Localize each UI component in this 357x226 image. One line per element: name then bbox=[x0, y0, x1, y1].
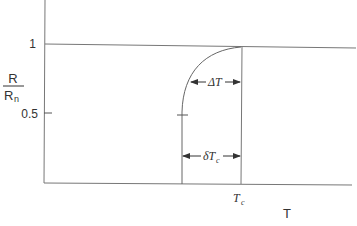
y-tick-1-label: 1 bbox=[29, 37, 36, 51]
transition-curve bbox=[182, 47, 241, 184]
delta-t-label: ΔT bbox=[207, 75, 223, 89]
tc-tick-label: T bbox=[233, 191, 241, 205]
y-axis bbox=[44, 0, 45, 183]
y-axis-label-denominator-sub: n bbox=[14, 94, 19, 104]
y-axis-label-denominator: R bbox=[4, 88, 13, 103]
transition-diagram: 1 0.5 R R n ΔT δT c T c T bbox=[0, 0, 357, 226]
x-axis bbox=[44, 183, 352, 185]
delta-tc-label-sub: c bbox=[216, 156, 220, 165]
tc-line bbox=[241, 47, 242, 184]
y-axis-label-numerator: R bbox=[8, 71, 17, 86]
tc-tick-label-sub: c bbox=[241, 198, 245, 207]
y-tick-0-5-label: 0.5 bbox=[21, 107, 38, 121]
delta-tc-label: δT bbox=[203, 149, 217, 163]
x-axis-label: T bbox=[283, 206, 291, 221]
normal-state-line bbox=[45, 44, 356, 48]
